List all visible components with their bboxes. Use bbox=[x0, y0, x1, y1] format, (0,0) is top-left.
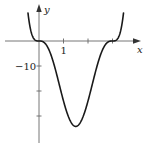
y-axis-arrow-icon bbox=[36, 4, 41, 12]
y-axis-label: y bbox=[43, 4, 50, 15]
function-graph: y x 1 −10 bbox=[0, 0, 152, 148]
x-tick-label-1: 1 bbox=[61, 45, 67, 56]
function-curve bbox=[28, 13, 124, 126]
x-axis-label: x bbox=[137, 44, 143, 55]
x-axis-arrow-icon bbox=[133, 38, 141, 43]
y-tick-label-neg10: −10 bbox=[15, 61, 36, 72]
